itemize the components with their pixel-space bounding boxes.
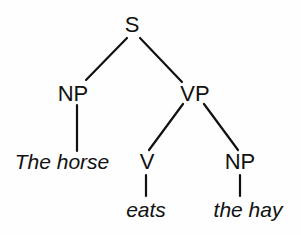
node-np-object: NP bbox=[225, 149, 256, 174]
tree-svg: S NP VP V NP The horse eats the hay bbox=[0, 0, 301, 235]
node-np-subject: NP bbox=[58, 81, 89, 106]
edge-vp-np bbox=[204, 104, 238, 150]
leaf-the-hay: the hay bbox=[214, 198, 284, 221]
leaf-the-horse: The horse bbox=[15, 150, 110, 173]
leaf-eats: eats bbox=[126, 198, 166, 221]
edge-vp-v bbox=[149, 104, 183, 150]
node-v: V bbox=[140, 149, 155, 174]
syntax-tree-diagram: S NP VP V NP The horse eats the hay bbox=[0, 0, 301, 235]
edge-s-np bbox=[86, 38, 127, 80]
edge-s-vp bbox=[140, 38, 182, 82]
node-s: S bbox=[125, 12, 140, 37]
node-vp: VP bbox=[180, 81, 209, 106]
